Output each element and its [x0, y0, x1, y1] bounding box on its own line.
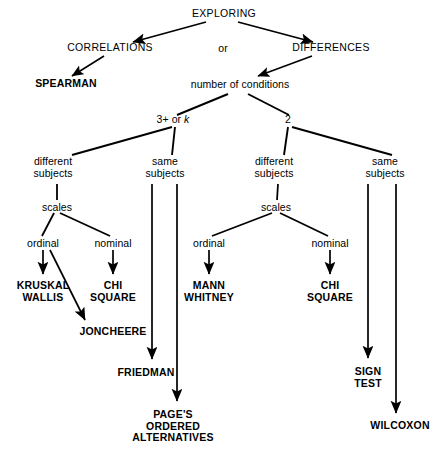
- node-nominal-right: nominal: [311, 238, 348, 250]
- edge-conditions-threeplus: [177, 94, 228, 115]
- edge-correlations-spearman: [72, 56, 104, 76]
- node-same-subjects-right: same subjects: [366, 156, 405, 179]
- three-plus-or-k-prefix: 3+ or: [157, 113, 184, 125]
- node-friedman: FRIEDMAN: [117, 367, 174, 379]
- node-scales-left: scales: [42, 202, 72, 214]
- node-kruskal-wallis: KRUSKAL WALLIS: [17, 280, 70, 303]
- node-or-label: or: [218, 43, 227, 55]
- node-number-of-conditions: number of conditions: [191, 79, 289, 91]
- edge-threeplus-same-subjects: [172, 127, 175, 155]
- node-different-subjects-right: different subjects: [255, 156, 294, 179]
- node-chi-square-left: CHI SQUARE: [90, 280, 136, 303]
- edge-scales-right-nominal: [280, 213, 328, 236]
- edge-two-same-subjects: [292, 127, 392, 155]
- node-ordinal-left: ordinal: [27, 238, 59, 250]
- node-joncheere: JONCHEERE: [79, 326, 146, 338]
- node-chi-square-right: CHI SQUARE: [307, 280, 353, 303]
- node-nominal-left: nominal: [94, 238, 131, 250]
- edge-differences-number-of-conditions: [258, 56, 312, 76]
- node-three-plus-or-k: 3+ or k: [157, 114, 190, 126]
- edge-exploring-differences: [238, 22, 313, 42]
- edge-conditions-two: [248, 94, 289, 115]
- three-plus-or-k-variable: k: [184, 113, 189, 125]
- node-correlations: CORRELATIONS: [67, 42, 153, 54]
- node-same-subjects-left: same subjects: [146, 156, 185, 179]
- edge-threeplus-different-subjects: [72, 127, 172, 155]
- edge-exploring-correlations: [133, 22, 206, 42]
- edge-scales-left-nominal: [60, 213, 110, 236]
- node-spearman: SPEARMAN: [35, 78, 97, 90]
- node-scales-right: scales: [261, 202, 291, 214]
- node-two-conditions: 2: [285, 114, 291, 126]
- node-sign-test: SIGN TEST: [354, 366, 382, 389]
- node-differences: DIFFERENCES: [292, 42, 369, 54]
- node-exploring: EXPLORING: [192, 8, 256, 20]
- edge-scales-left-ordinal: [42, 213, 54, 236]
- node-pages-ordered-alternatives: PAGE'S ORDERED ALTERNATIVES: [132, 409, 213, 444]
- node-mann-whitney: MANN WHITNEY: [184, 280, 234, 303]
- edge-diffsubj-right-scales: [277, 184, 278, 200]
- node-wilcoxon: WILCOXON: [370, 420, 429, 432]
- edge-scales-right-ordinal: [212, 213, 272, 236]
- edge-two-different-subjects: [284, 127, 288, 155]
- decision-tree-diagram: EXPLORING CORRELATIONS or DIFFERENCES SP…: [0, 0, 438, 454]
- node-different-subjects-left: different subjects: [34, 156, 73, 179]
- node-ordinal-right: ordinal: [193, 238, 225, 250]
